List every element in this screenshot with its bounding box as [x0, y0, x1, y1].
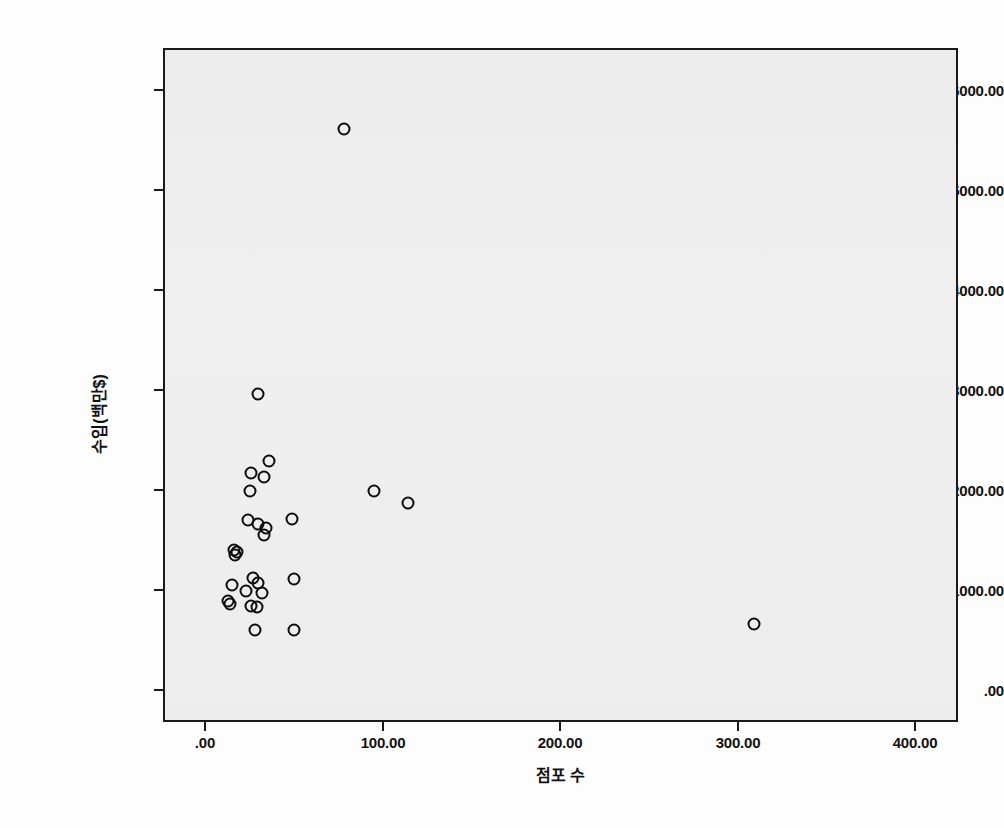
data-point: [245, 467, 258, 480]
x-tick-label: 200.00: [538, 734, 583, 751]
data-point: [337, 123, 350, 136]
data-point: [248, 624, 261, 637]
data-point: [250, 600, 263, 613]
data-point: [287, 624, 300, 637]
data-point: [286, 513, 299, 526]
x-tick-label: 300.00: [716, 734, 761, 751]
y-tick-mark: [154, 489, 163, 491]
x-tick-mark: [559, 722, 561, 731]
x-tick-mark: [914, 722, 916, 731]
x-tick-mark: [382, 722, 384, 731]
scatter-plot-page: □□□□□□ □□□□□ □□□□□□ □□□□□ □□□□□□ □□□□ □□…: [0, 0, 1004, 828]
data-point: [401, 497, 414, 510]
x-tick-mark: [204, 722, 206, 731]
data-point: [257, 471, 270, 484]
x-tick-label: .00: [195, 734, 215, 751]
data-point: [367, 485, 380, 498]
data-point: [225, 579, 238, 592]
data-point: [243, 485, 256, 498]
data-point: [240, 585, 253, 598]
data-point: [287, 573, 300, 586]
x-tick-mark: [737, 722, 739, 731]
y-tick-mark: [154, 689, 163, 691]
y-tick-mark: [154, 389, 163, 391]
data-point: [263, 455, 276, 468]
x-tick-label: 100.00: [361, 734, 406, 751]
y-tick-mark: [154, 289, 163, 291]
y-axis-title: 수입(백만$): [86, 374, 110, 454]
x-tick-label: 400.00: [893, 734, 938, 751]
x-axis-title: 점포 수: [163, 762, 958, 786]
data-point: [224, 598, 237, 611]
y-tick-mark: [154, 189, 163, 191]
y-tick-mark: [154, 89, 163, 91]
data-point: [229, 549, 242, 562]
data-point: [257, 529, 270, 542]
plot-area: [163, 48, 958, 722]
y-tick-mark: [154, 589, 163, 591]
data-point: [256, 587, 269, 600]
data-point: [252, 387, 265, 400]
data-point: [747, 618, 760, 631]
plot-background: [165, 50, 956, 720]
